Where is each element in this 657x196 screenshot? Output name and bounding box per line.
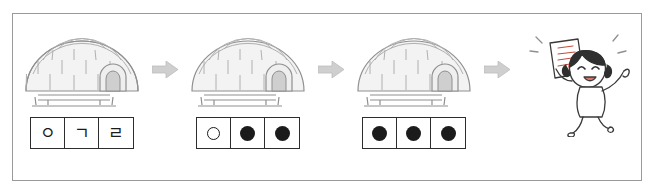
tile-glyph: ㄱ	[74, 125, 90, 142]
arrow-right-icon	[318, 61, 344, 78]
tile-2-3[interactable]	[265, 118, 299, 148]
filled-dot-icon	[406, 126, 421, 141]
igloo-svg	[346, 19, 482, 111]
tile-3-2[interactable]	[397, 118, 431, 148]
igloo-svg	[14, 19, 150, 111]
diagram-canvas: ㅇ ㄱ ㄹ	[0, 0, 657, 196]
filled-dot-icon	[240, 126, 255, 141]
filled-dot-icon	[441, 126, 456, 141]
arrow-cell-2	[318, 13, 344, 181]
tile-row-1: ㅇ ㄱ ㄹ	[30, 117, 134, 149]
step-4	[510, 13, 650, 181]
arrow-right-icon	[152, 61, 178, 78]
tile-2-2[interactable]	[231, 118, 265, 148]
girl-with-paper-svg	[520, 21, 640, 137]
arrow-cell-3	[484, 13, 510, 181]
tile-3-1[interactable]	[363, 118, 397, 148]
arrow-cell-1	[152, 13, 178, 181]
tile-1-3[interactable]: ㄹ	[99, 118, 133, 148]
tile-row-2	[196, 117, 300, 149]
tile-row-3	[362, 117, 466, 149]
tile-2-1[interactable]	[197, 118, 231, 148]
tile-glyph: ㅇ	[40, 125, 56, 142]
igloo-illustration-1	[12, 19, 152, 111]
arrow-right-icon	[484, 61, 510, 78]
igloo-svg	[180, 19, 316, 111]
sequence-steps: ㅇ ㄱ ㄹ	[12, 13, 642, 181]
tile-1-1[interactable]: ㅇ	[31, 118, 65, 148]
filled-dot-icon	[372, 126, 387, 141]
filled-dot-icon	[275, 126, 290, 141]
tile-glyph: ㄹ	[108, 125, 124, 142]
girl-illustration	[510, 19, 650, 139]
step-2	[178, 13, 318, 181]
igloo-illustration-3	[344, 19, 484, 111]
step-3	[344, 13, 484, 181]
igloo-illustration-2	[178, 19, 318, 111]
tile-3-3[interactable]	[431, 118, 465, 148]
step-1: ㅇ ㄱ ㄹ	[12, 13, 152, 181]
empty-dot-icon	[207, 127, 220, 140]
tile-1-2[interactable]: ㄱ	[65, 118, 99, 148]
